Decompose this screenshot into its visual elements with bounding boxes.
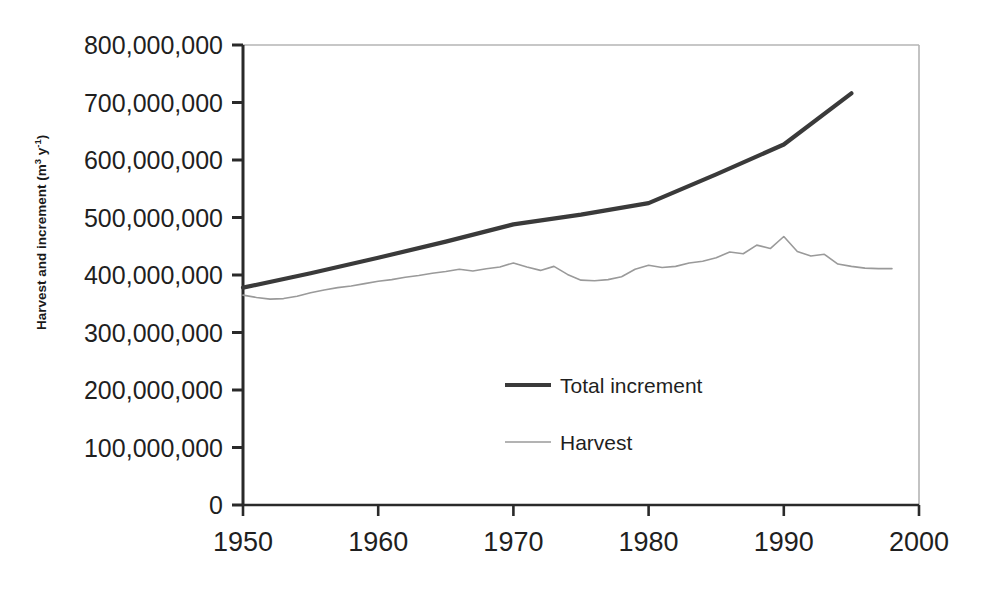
legend-label-total-increment: Total increment: [560, 374, 703, 397]
chart-legend: Total incrementHarvest: [505, 374, 703, 454]
y-axis-title-text: Harvest and increment (m3 y-1): [32, 135, 49, 330]
x-axis-ticks: [243, 505, 919, 516]
x-axis-tick-label: 1980: [619, 527, 679, 557]
y-axis-tick-label: 0: [209, 491, 223, 519]
x-axis-tick-label: 1960: [348, 527, 408, 557]
legend-label-harvest: Harvest: [560, 431, 633, 454]
data-series-layer: [243, 93, 892, 299]
chart-container: 0100,000,000200,000,000300,000,000400,00…: [0, 0, 990, 594]
y-axis-tick-label: 200,000,000: [84, 376, 223, 404]
y-axis-title: Harvest and increment (m3 y-1): [32, 135, 49, 330]
y-axis-tick-label: 600,000,000: [84, 146, 223, 174]
y-axis-title-mid: y: [34, 147, 49, 159]
y-axis: 0100,000,000200,000,000300,000,000400,00…: [84, 31, 243, 519]
x-axis-tick-label: 1970: [483, 527, 543, 557]
line-chart: 0100,000,000200,000,000300,000,000400,00…: [0, 0, 990, 594]
x-axis-tick-label: 1950: [213, 527, 273, 557]
y-axis-tick-labels: 0100,000,000200,000,000300,000,000400,00…: [84, 31, 223, 519]
y-axis-tick-label: 100,000,000: [84, 434, 223, 462]
legend-item: Harvest: [505, 431, 633, 454]
y-axis-title-main: Harvest and increment (m: [34, 164, 49, 330]
legend-item: Total increment: [505, 374, 703, 397]
series-line-total-increment: [243, 93, 851, 287]
y-axis-tick-label: 700,000,000: [84, 89, 223, 117]
y-axis-title-tail: ): [34, 135, 49, 140]
y-axis-tick-label: 800,000,000: [84, 31, 223, 59]
x-axis-tick-label: 2000: [889, 527, 949, 557]
x-axis: 195019601970198019902000: [213, 505, 949, 557]
y-axis-tick-label: 300,000,000: [84, 319, 223, 347]
y-axis-tick-label: 400,000,000: [84, 261, 223, 289]
x-axis-tick-label: 1990: [754, 527, 814, 557]
y-axis-tick-label: 500,000,000: [84, 204, 223, 232]
x-axis-tick-labels: 195019601970198019902000: [213, 527, 949, 557]
y-axis-ticks: [232, 45, 243, 505]
